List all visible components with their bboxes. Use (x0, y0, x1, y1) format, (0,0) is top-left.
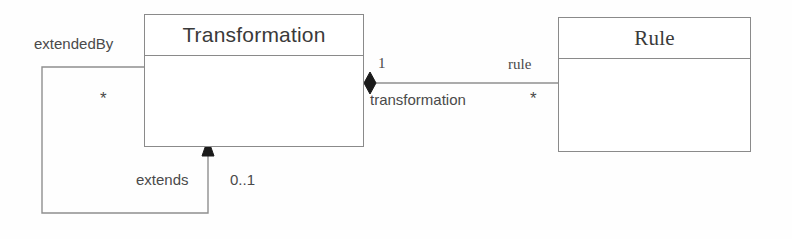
class-title-compartment-rule: Rule (559, 18, 750, 59)
role-label-transformation: transformation (370, 92, 466, 107)
role-label-rule: rule (508, 57, 531, 72)
class-name-transformation: Transformation (182, 23, 325, 47)
class-name-rule: Rule (634, 26, 674, 51)
role-label-extends: extends (136, 172, 189, 187)
role-label-extendedby: extendedBy (34, 36, 113, 51)
multiplicity-label-extends: 0..1 (230, 172, 255, 187)
multiplicity-label-rule: * (530, 90, 537, 107)
class-box-rule[interactable]: Rule (558, 17, 751, 152)
class-title-compartment-transformation: Transformation (145, 15, 363, 56)
class-box-transformation[interactable]: Transformation (144, 14, 364, 147)
multiplicity-label-transformation: 1 (378, 56, 386, 71)
class-body-compartment-rule (559, 59, 750, 151)
uml-class-diagram-canvas: Transformation Rule extendedBy * extends… (0, 0, 792, 239)
multiplicity-label-extendedby: * (100, 90, 107, 107)
class-body-compartment-transformation (145, 56, 363, 146)
